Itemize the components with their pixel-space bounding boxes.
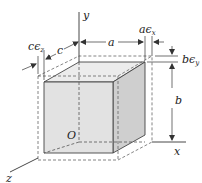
z-axis: [10, 158, 38, 172]
z-axis-label: z: [5, 172, 12, 183]
dimension-a-label: a: [108, 36, 115, 49]
dimension-b-strain-label: bϵy: [182, 53, 200, 67]
origin-label: O: [67, 129, 76, 142]
dimension-a-strain-label: aϵx: [139, 23, 156, 37]
dimension-c-label: c: [57, 44, 63, 57]
dimension-c-strain-label: cϵz: [28, 40, 44, 54]
dimension-b-label: b: [175, 94, 182, 107]
y-axis-label: y: [82, 9, 90, 22]
x-axis-label: x: [174, 145, 181, 158]
strain-block-diagram: y x z O a aϵx b bϵy c cϵz: [0, 0, 202, 183]
